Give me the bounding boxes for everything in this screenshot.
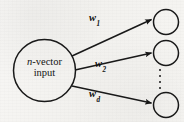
- weight-subscript-w1: 1: [96, 20, 100, 28]
- weight-subscript-wd: d: [96, 96, 100, 104]
- vertical-ellipsis-icon: [156, 69, 164, 89]
- input-node-label-vector: -vector: [32, 56, 62, 67]
- weight-label-wd: wd: [89, 88, 100, 99]
- output-node-2: [154, 41, 179, 66]
- edge-w1: [72, 20, 152, 57]
- weight-base-wd: w: [89, 88, 96, 99]
- input-node-label-line-2: input: [13, 67, 76, 78]
- weight-base-w2: w: [95, 58, 102, 69]
- weight-subscript-w2: 2: [102, 66, 106, 74]
- ellipsis-dot: [159, 87, 161, 89]
- edge-wd: [72, 86, 152, 103]
- input-node-label-line-1: n-vector: [13, 56, 76, 67]
- ellipsis-dot: [159, 69, 161, 71]
- weight-base-w1: w: [89, 12, 96, 23]
- output-node-1: [154, 10, 179, 35]
- edge-w2: [75, 53, 152, 70]
- ellipsis-dot: [159, 75, 161, 77]
- weight-label-w2: w2: [95, 58, 106, 69]
- input-node-label: n-vector input: [13, 56, 76, 78]
- output-node-3: [154, 93, 179, 118]
- ellipsis-dot: [159, 81, 161, 83]
- weight-label-w1: w1: [89, 12, 100, 23]
- figure-root: n-vector input w1 w2 wd: [0, 0, 184, 122]
